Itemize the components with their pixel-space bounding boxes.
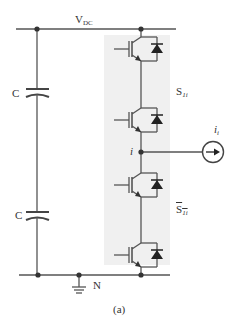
neutral-label: N bbox=[93, 280, 101, 291]
capacitor-top-label: C bbox=[12, 88, 19, 99]
figure-caption: (a) bbox=[113, 304, 125, 315]
output-node-label: i bbox=[130, 146, 133, 157]
circuit-diagram bbox=[0, 0, 244, 327]
switch-bottom-label: S1i bbox=[176, 204, 188, 217]
current-source-label: ii bbox=[214, 124, 219, 137]
vdc-label: VDC bbox=[75, 14, 93, 27]
capacitor-string bbox=[26, 29, 49, 275]
capacitor-bottom-label: C bbox=[15, 210, 22, 221]
switch-leg-shading bbox=[104, 35, 170, 265]
current-source-icon bbox=[203, 142, 224, 163]
switch-top-label: S1i bbox=[176, 86, 188, 99]
ground-icon bbox=[72, 275, 86, 293]
